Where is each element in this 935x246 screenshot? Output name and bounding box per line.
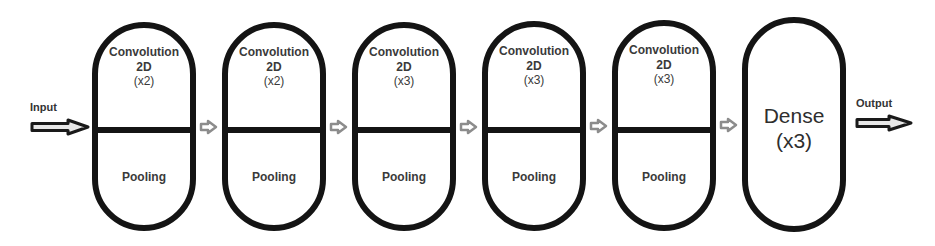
conv-label: Convolution 2D (x3)	[488, 44, 580, 88]
conv-label: Convolution 2D (x3)	[358, 45, 450, 89]
conv-title: Convolution	[98, 45, 190, 60]
block-divider	[358, 127, 450, 133]
block-divider	[488, 127, 580, 133]
input-arrow-icon	[30, 119, 92, 135]
pooling-label: Pooling	[228, 170, 320, 184]
connector-arrow-icon	[589, 119, 608, 133]
conv-dim: 2D	[488, 59, 580, 74]
pooling-label: Pooling	[488, 170, 580, 184]
output-label: Output	[856, 97, 892, 109]
block-divider	[98, 127, 190, 133]
connector-arrow-icon	[329, 120, 348, 134]
dense-block: Dense (x3)	[742, 17, 846, 232]
pooling-label: Pooling	[98, 170, 190, 184]
block-divider	[618, 127, 710, 133]
conv-title: Convolution	[228, 45, 320, 60]
dense-label: Dense (x3)	[748, 103, 840, 153]
output-arrow-icon	[855, 115, 917, 131]
conv-pool-block-3: Convolution 2D (x3) Pooling	[352, 22, 456, 231]
conv-title: Convolution	[488, 44, 580, 59]
conv-title: Convolution	[358, 45, 450, 60]
conv-dim: 2D	[98, 60, 190, 75]
conv-label: Convolution 2D (x3)	[618, 43, 710, 87]
conv-repeat-count: (x3)	[488, 73, 580, 88]
conv-dim: 2D	[228, 60, 320, 75]
conv-repeat-count: (x3)	[618, 72, 710, 87]
dense-repeat-count: (x3)	[748, 128, 840, 153]
connector-arrow-icon	[459, 120, 478, 134]
pooling-label: Pooling	[618, 170, 710, 184]
conv-label: Convolution 2D (x2)	[228, 45, 320, 89]
conv-dim: 2D	[618, 58, 710, 73]
dense-title: Dense	[748, 103, 840, 128]
connector-arrow-icon	[719, 118, 738, 132]
conv-pool-block-5: Convolution 2D (x3) Pooling	[612, 20, 716, 231]
conv-pool-block-4: Convolution 2D (x3) Pooling	[482, 21, 586, 231]
cnn-architecture-diagram: Input Convolution 2D (x2) Pooling Convol…	[0, 0, 935, 246]
conv-repeat-count: (x2)	[228, 74, 320, 89]
conv-repeat-count: (x2)	[98, 74, 190, 89]
conv-title: Convolution	[618, 43, 710, 58]
conv-repeat-count: (x3)	[358, 74, 450, 89]
conv-pool-block-2: Convolution 2D (x2) Pooling	[222, 22, 326, 231]
block-divider	[228, 127, 320, 133]
conv-dim: 2D	[358, 60, 450, 75]
conv-label: Convolution 2D (x2)	[98, 45, 190, 89]
pooling-label: Pooling	[358, 170, 450, 184]
connector-arrow-icon	[199, 120, 218, 134]
conv-pool-block-1: Convolution 2D (x2) Pooling	[92, 22, 196, 231]
input-label: Input	[30, 101, 57, 113]
